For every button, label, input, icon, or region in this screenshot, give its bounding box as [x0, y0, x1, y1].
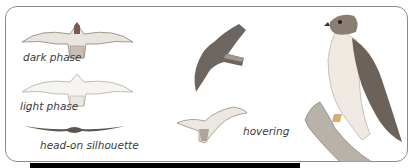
- caption-dark-phase: dark phase: [23, 51, 82, 63]
- caption-hovering: hovering: [243, 125, 289, 137]
- head-on-silhouette-illustration: [22, 122, 127, 136]
- bottom-black-bar: [30, 163, 300, 168]
- caption-head-on-silhouette: head-on silhouette: [40, 139, 139, 151]
- hovering-hawk-illustration: [175, 105, 250, 145]
- perched-hawk-illustration: [300, 10, 410, 162]
- caption-light-phase: light phase: [20, 100, 78, 112]
- soaring-hawk-illustration: [184, 20, 249, 95]
